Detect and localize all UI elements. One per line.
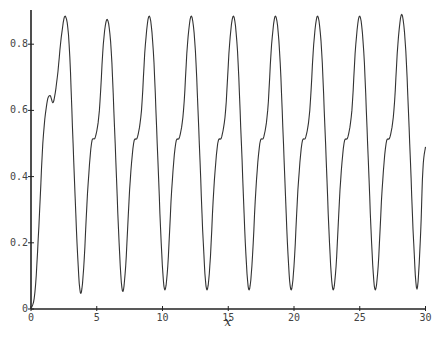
x-tick-label: 25 — [354, 312, 366, 323]
y-tick-label: 0.2 — [10, 237, 28, 248]
line-chart: 05101520253000.20.40.60.8 x — [0, 0, 441, 338]
x-tick-label: 30 — [419, 312, 431, 323]
y-tick-label: 0.8 — [10, 38, 28, 49]
x-tick-label: 10 — [156, 312, 168, 323]
x-tick-label: 0 — [28, 312, 34, 323]
x-tick-label: 5 — [94, 312, 100, 323]
y-tick-label: 0.6 — [10, 104, 28, 115]
x-tick-label: 20 — [288, 312, 300, 323]
x-axis-label: x — [225, 315, 232, 329]
y-tick-label: 0 — [22, 303, 28, 314]
y-tick-label: 0.4 — [10, 171, 28, 182]
data-series-line — [31, 14, 426, 309]
